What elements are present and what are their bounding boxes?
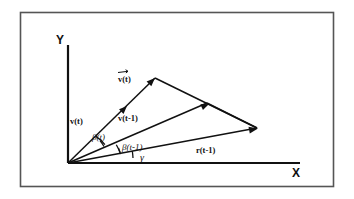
label-beta-t: β(t)	[91, 132, 105, 142]
canvas-background	[0, 0, 354, 199]
y-axis-label: Y	[56, 33, 64, 47]
label-r-t-minus-1: r(t-1)	[196, 145, 216, 155]
label-v-t: v(t)	[70, 116, 83, 126]
label-v-t-prime: v(t)	[118, 74, 131, 84]
figure-root: Y X	[0, 0, 354, 199]
label-beta-t-minus-1: β(t-1)	[121, 142, 142, 152]
label-v-t-minus-1: v(t-1)	[118, 113, 138, 123]
x-axis-label: X	[292, 166, 300, 180]
arc-gamma	[132, 151, 133, 158]
vector-diagram-svg: Y X	[0, 0, 354, 199]
